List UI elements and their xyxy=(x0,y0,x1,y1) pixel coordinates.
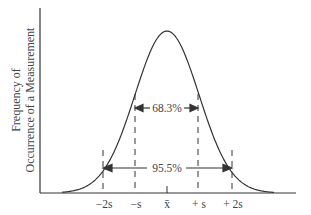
y-axis-label-line2: Occurrence of a Measurement xyxy=(23,5,37,195)
tick-label-minus-2s: −2s xyxy=(96,198,113,210)
annotation-68-percent: 68.3% xyxy=(150,102,184,114)
tick-label-minus-s: −s xyxy=(131,198,142,210)
tick-label-plus-s: + s xyxy=(192,198,206,210)
tick-label-plus-2s: + 2s xyxy=(223,198,243,210)
y-axis-label: Frequency of Occurrence of a Measurement xyxy=(9,5,37,195)
annotation-95-percent: 95.5% xyxy=(150,162,184,174)
tick-label-mean: x̄ xyxy=(164,198,170,210)
y-axis-label-line1: Frequency of xyxy=(9,5,23,195)
